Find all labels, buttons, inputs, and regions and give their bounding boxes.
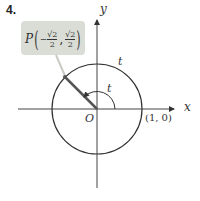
origin-label: O <box>85 112 94 125</box>
callout-leader <box>56 55 65 76</box>
point-p <box>63 75 67 79</box>
angle-label: t <box>107 82 111 95</box>
point-p-label: P ( − √2 2 , √2 2 ) <box>25 25 82 53</box>
radius-to-p <box>65 77 97 109</box>
unit-point-label: (1, 0) <box>145 112 172 123</box>
arc-length-label: t <box>118 55 122 68</box>
x-axis-label: x <box>184 100 191 114</box>
y-axis-label: y <box>100 2 107 16</box>
figure-root: 4. P ( − √2 2 , √2 2 ) <box>0 0 200 201</box>
